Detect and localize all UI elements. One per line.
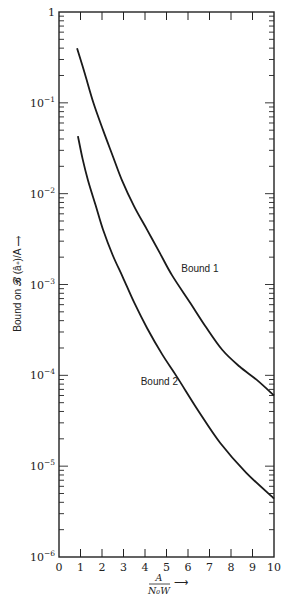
- y-tick-label-exponent: −2: [44, 186, 55, 195]
- x-axis-label-numerator: A: [155, 572, 163, 583]
- y-tick-label: 10−3: [30, 277, 55, 292]
- series-lines: [77, 48, 274, 498]
- x-tick-label: 6: [185, 561, 192, 574]
- annotation-bound-1: Bound 1: [181, 263, 219, 274]
- y-tick-label: 10−1: [30, 95, 55, 110]
- x-tick-label: 0: [56, 561, 63, 574]
- y-tick-label-base: 10: [30, 369, 44, 382]
- y-tick-label: 10−5: [30, 458, 55, 473]
- annotation-bound-2: Bound 2: [141, 376, 179, 387]
- x-tick-label: 2: [99, 561, 106, 574]
- x-tick-label: 5: [163, 561, 170, 574]
- x-tick-label: 10: [267, 561, 281, 574]
- x-axis-label: A N₀W ⟶: [147, 572, 188, 596]
- y-tick-label-base: 1: [48, 6, 55, 19]
- y-tick-label-exponent: −4: [44, 367, 55, 376]
- series-line-bound-1: [77, 48, 274, 395]
- x-tick-label: 8: [228, 561, 235, 574]
- y-tick-label-base: 10: [30, 97, 44, 110]
- y-tick-label-base: 10: [30, 460, 44, 473]
- y-axis-label: Bound on 𝓑 (â∗)/A ⟶: [12, 236, 23, 331]
- y-tick-label: 10−4: [30, 367, 55, 382]
- chart: 012345678910 110−110−210−310−410−510−6 B…: [0, 0, 288, 602]
- x-tick-label: 7: [206, 561, 213, 574]
- x-tick-label: 3: [120, 561, 127, 574]
- y-tick-label-exponent: −3: [44, 277, 55, 286]
- x-tick-label: 1: [77, 561, 84, 574]
- y-tick-label-base: 10: [30, 279, 44, 292]
- y-tick-label-exponent: −5: [44, 458, 55, 467]
- y-tick-label-exponent: −1: [44, 95, 55, 104]
- y-tick-label: 10−2: [30, 186, 55, 201]
- series-annotations: Bound 1Bound 2: [141, 263, 219, 387]
- y-tick-label-base: 10: [30, 188, 44, 201]
- y-tick-label: 10−6: [30, 549, 55, 564]
- x-axis-label-denominator: N₀W: [147, 585, 171, 596]
- x-tick-labels: 012345678910: [56, 561, 282, 574]
- x-tick-label: 9: [249, 561, 256, 574]
- x-tick-label: 4: [142, 561, 149, 574]
- y-tick-label-exponent: −6: [44, 549, 55, 558]
- y-tick-labels: 110−110−210−310−410−510−6: [30, 6, 55, 564]
- y-tick-label-base: 10: [30, 551, 44, 564]
- y-tick-label: 1: [48, 6, 55, 19]
- series-line-bound-2: [78, 136, 274, 498]
- x-axis-label-arrow: ⟶: [174, 577, 188, 588]
